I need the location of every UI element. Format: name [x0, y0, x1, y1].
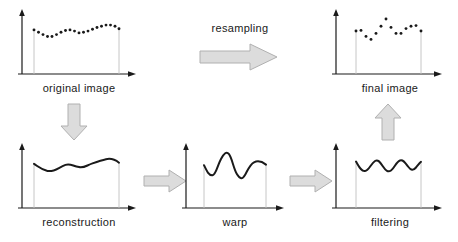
resampling-arrow-icon — [198, 42, 280, 72]
y-axis-arrowhead — [19, 143, 25, 150]
y-axis-arrowhead — [183, 143, 189, 150]
y-axis-arrowhead — [19, 9, 25, 16]
warp-svg — [178, 140, 292, 214]
y-axis-arrowhead — [333, 9, 339, 16]
x-axis-arrowhead — [434, 71, 442, 77]
filtering-svg — [328, 140, 452, 214]
x-axis-arrowhead — [434, 205, 442, 211]
plot-filtering — [328, 140, 452, 214]
caption-filtering: filtering — [328, 216, 452, 228]
caption-original-image: original image — [14, 82, 144, 94]
plot-original-image — [14, 6, 144, 80]
caption-final-image: final image — [328, 82, 452, 94]
x-axis-arrowhead — [276, 205, 284, 211]
resampling-pipeline-diagram: original image — [0, 0, 458, 242]
filtering-curve — [356, 160, 421, 171]
label-resampling: resampling — [180, 22, 300, 34]
plot-final-image — [328, 6, 452, 80]
warp-curve — [204, 153, 266, 178]
arrow-resampling — [198, 42, 280, 76]
up-arrow-icon — [372, 102, 404, 142]
plot-warp — [178, 140, 292, 214]
caption-warp: warp — [178, 216, 292, 228]
sample-dots — [33, 24, 121, 38]
sample-dots — [355, 18, 423, 41]
x-axis-arrowhead — [128, 205, 136, 211]
x-axis-arrowhead — [128, 71, 136, 77]
caption-reconstruction: reconstruction — [14, 216, 144, 228]
plot-reconstruction — [14, 140, 144, 214]
down-arrow-icon — [58, 102, 90, 142]
y-axis-arrowhead — [333, 143, 339, 150]
final-image-svg — [328, 6, 452, 80]
reconstruction-svg — [14, 140, 144, 214]
original-image-svg — [14, 6, 144, 80]
reconstruction-curve — [34, 159, 119, 171]
